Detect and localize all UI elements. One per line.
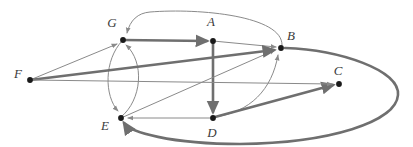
graph-vertex-label-c: C (334, 63, 343, 78)
graph-vertex-label-a: A (206, 14, 215, 29)
graph-edge-a-b (213, 41, 276, 47)
graph-vertex-label-g: G (107, 15, 117, 30)
graph-vertex-a (210, 38, 216, 44)
graph-vertex-c (336, 81, 342, 87)
graph-edge-g-a (123, 40, 207, 41)
graph-edge-d-c (215, 85, 333, 117)
graph-vertex-label-b: B (287, 28, 295, 43)
graph-vertex-f (27, 77, 33, 83)
graph-vertex-label-d: D (206, 125, 217, 140)
graph-vertex-label-f: F (13, 66, 23, 81)
graph-canvas: ABCDEFG (0, 0, 413, 147)
graph-vertex-d (210, 115, 216, 121)
graph-edge-f-c (30, 80, 332, 84)
directed-graph-figure: ABCDEFG (0, 0, 413, 147)
graph-vertex-e (118, 115, 124, 121)
graph-vertex-g (120, 37, 126, 43)
graph-edge-g-e (108, 41, 122, 111)
graph-vertex-label-e: E (100, 118, 109, 133)
graph-vertex-b (278, 45, 284, 51)
